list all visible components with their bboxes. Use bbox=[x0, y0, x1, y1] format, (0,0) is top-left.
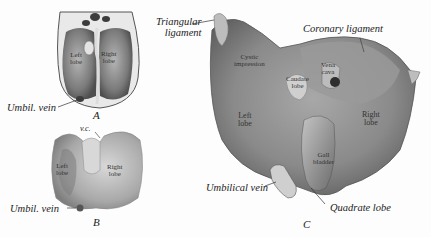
fig-b-umbil-vein-label: Umbil. vein bbox=[10, 204, 59, 215]
fig-c-left-lobe-label: Left lobe bbox=[238, 112, 252, 127]
figure-c-drawing bbox=[192, 13, 420, 204]
fig-b-left-lobe-label: Left lobe bbox=[56, 163, 68, 176]
fig-b-vc-label: v.c. bbox=[80, 125, 91, 133]
fig-a-umbil-vein-label: Umbil. vein bbox=[7, 103, 56, 114]
fig-c-vena-cava-label: Vena cava bbox=[321, 62, 335, 75]
fig-c-quadrate-lobe-label: Quadrate lobe bbox=[330, 203, 391, 214]
fig-c-caudate-lobe-label: Caudate lobe bbox=[286, 76, 309, 89]
fig-a-right-lobe-label: Right lobe bbox=[101, 51, 117, 64]
fig-c-cystic-impression-label: Cystic impression bbox=[234, 54, 265, 67]
fig-a-left-lobe-label: Left lobe bbox=[70, 52, 82, 65]
fig-c-umbilical-vein-label: Umbilical vein bbox=[206, 183, 268, 194]
anatomical-figure: Left lobe Right lobe Umbil. vein A v.c. … bbox=[0, 0, 431, 237]
fig-c-coronary-ligament-label: Coronary ligament bbox=[303, 24, 383, 35]
fig-c-right-lobe-label: Right lobe bbox=[362, 111, 380, 126]
fig-b-caption: B bbox=[93, 217, 100, 228]
fig-c-caption: C bbox=[303, 219, 310, 230]
fig-c-gall-bladder-label: Gall bladder bbox=[313, 152, 334, 165]
fig-a-caption: A bbox=[93, 110, 100, 121]
fig-b-right-lobe-label: Right lobe bbox=[107, 164, 123, 177]
fig-c-triangular-ligament-label: Triangular ligament bbox=[156, 16, 202, 38]
